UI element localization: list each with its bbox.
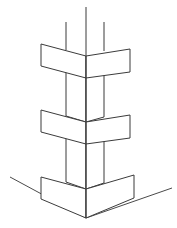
band-upper-left-face	[41, 44, 86, 78]
shaft-top-edges-group	[66, 7, 104, 56]
figure-canvas: Column corner axonometric line drawing	[0, 0, 177, 228]
column-corner-line-drawing: Column corner axonometric line drawing	[0, 0, 177, 228]
band-upper-right-face	[86, 49, 130, 78]
